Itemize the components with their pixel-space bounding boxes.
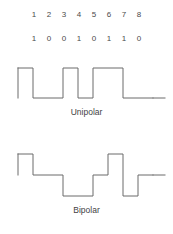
bit-value-cell: 0	[132, 34, 147, 44]
bit-index-cell: 6	[102, 10, 117, 20]
bipolar-waveform-block: Bipolar	[0, 148, 173, 216]
bit-value-cell: 0	[42, 34, 57, 44]
unipolar-waveform-block: Unipolar	[0, 62, 173, 118]
bit-value-cell: 1	[27, 34, 42, 44]
bit-index-cell: 4	[72, 10, 87, 20]
bit-index-cell: 5	[87, 10, 102, 20]
bit-value-cell: 0	[57, 34, 72, 44]
bit-value-row: 1 0 0 1 0 1 1 0	[0, 34, 173, 44]
bipolar-waveform-svg	[0, 148, 173, 204]
bit-index-cell: 7	[117, 10, 132, 20]
unipolar-label: Unipolar	[0, 107, 173, 118]
bit-index-cell: 1	[27, 10, 42, 20]
bit-index-cell: 2	[42, 10, 57, 20]
bit-value-cell: 0	[87, 34, 102, 44]
bit-value-cell: 1	[117, 34, 132, 44]
signal-encoding-figure: 1 2 3 4 5 6 7 8 1 0 0 1 0 1 1 0 Unipolar…	[0, 0, 173, 234]
bit-index-cell: 8	[132, 10, 147, 20]
unipolar-trace	[18, 68, 153, 98]
bit-value-cell: 1	[102, 34, 117, 44]
bipolar-label: Bipolar	[0, 205, 173, 216]
bit-index-cell: 3	[57, 10, 72, 20]
bipolar-trace	[18, 154, 153, 196]
unipolar-waveform-svg	[0, 62, 173, 106]
bit-value-cell: 1	[72, 34, 87, 44]
bit-index-row: 1 2 3 4 5 6 7 8	[0, 10, 173, 20]
